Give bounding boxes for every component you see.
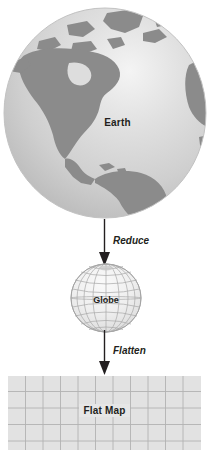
flat-map-stage: Flat Map bbox=[8, 376, 201, 450]
flatten-label: Flatten bbox=[113, 345, 146, 356]
globe-stage: Globe bbox=[66, 262, 146, 334]
down-arrow-icon bbox=[0, 330, 213, 376]
reduce-label: Reduce bbox=[113, 235, 149, 246]
reduce-transition: Reduce bbox=[0, 219, 213, 267]
flat-map-label: Flat Map bbox=[8, 405, 201, 416]
earth-stage: Earth bbox=[3, 7, 208, 219]
earth-label: Earth bbox=[3, 117, 208, 128]
earth-globe-icon bbox=[3, 7, 208, 219]
globe-label: Globe bbox=[66, 295, 146, 305]
flatten-transition: Flatten bbox=[0, 330, 213, 376]
down-arrow-icon bbox=[0, 219, 213, 267]
